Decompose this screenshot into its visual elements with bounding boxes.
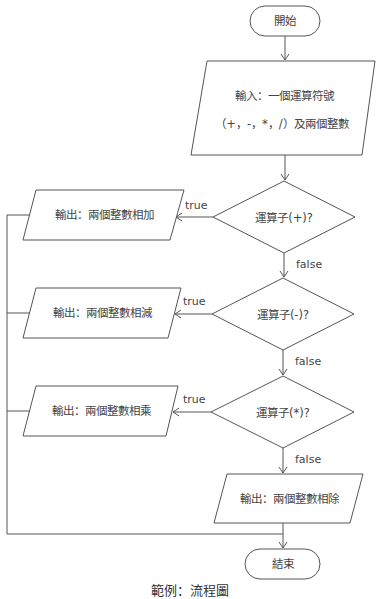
input-label-line2: （+，-，*，/）及兩個整數 [215,117,349,131]
end-terminal: 結束 [245,549,320,579]
decision-add: 運算子(+)? [213,181,355,253]
output-add-node: 輸出：兩個整數相加 [23,190,184,240]
start-terminal: 開始 [250,6,320,36]
edge-label-true-mul: true [183,393,206,406]
output-div-node: 輸出：兩個整數相除 [214,474,363,523]
decision-sub-label: 運算子(-)? [257,308,309,322]
edge-label-false-add: false [296,258,322,271]
end-label: 結束 [272,557,295,571]
decision-mul-label: 運算子(*)? [256,406,310,420]
decision-mul: 運算子(*)? [211,376,354,448]
decision-sub: 運算子(-)? [212,278,354,350]
edge-label-true-add: true [185,199,208,212]
output-mul-node: 輸出：兩個整數相乘 [23,386,178,436]
output-add-label: 輸出：兩個整數相加 [55,208,154,222]
input-node: 輸入：一個運算符號 （+，-，*，/）及兩個整數 [191,61,375,155]
start-label: 開始 [274,14,297,28]
output-mul-label: 輸出：兩個整數相乘 [52,404,152,418]
edge-label-false-sub: false [295,355,321,368]
output-div-label: 輸出：兩個整數相除 [240,492,340,506]
input-label-line1: 輸入：一個運算符號 [235,89,335,103]
output-sub-node: 輸出：兩個整數相減 [23,288,181,338]
edge-label-true-sub: true [183,295,206,308]
decision-add-label: 運算子(+)? [255,211,313,225]
output-sub-label: 輸出：兩個整數相減 [53,306,153,320]
edge-label-false-mul: false [295,453,321,466]
figure-caption: 範例：流程圖 [120,580,260,599]
